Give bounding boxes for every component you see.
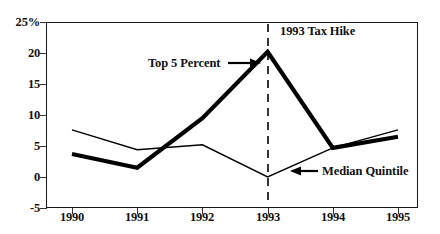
annotation-median-quintile: Median Quintile [322,164,408,179]
chart-root: 25% 20 15 10 5 0 -5 1990 1991 1992 1993 … [0,0,440,234]
median-arrow-icon [290,167,318,176]
annotation-top-5-percent: Top 5 Percent [148,56,220,71]
series-layer [0,0,440,234]
annotation-1993-tax-hike: 1993 Tax Hike [280,24,355,39]
series-line-top-5-percent [72,52,398,168]
